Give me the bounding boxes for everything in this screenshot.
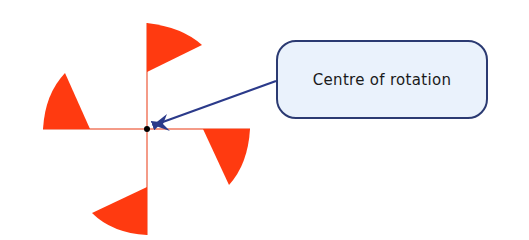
sector-left bbox=[43, 73, 90, 129]
sector-bottom bbox=[92, 187, 147, 235]
sector-top bbox=[147, 23, 202, 72]
rotation-diagram bbox=[0, 0, 529, 240]
centre-point bbox=[144, 126, 150, 132]
callout-box: Centre of rotation bbox=[276, 40, 488, 119]
pointer-arrow bbox=[160, 81, 276, 123]
callout-label: Centre of rotation bbox=[313, 71, 451, 89]
sector-right bbox=[203, 129, 250, 185]
